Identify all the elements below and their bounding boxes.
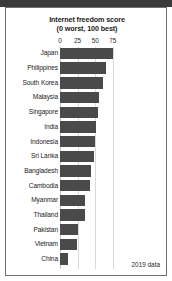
category-label: Singapore (29, 108, 58, 115)
bar (60, 209, 85, 220)
bar (60, 253, 68, 264)
category-label: Malaysia (33, 93, 58, 100)
category-label: Japan (41, 49, 58, 56)
bar (60, 92, 99, 103)
chart-title: Internet freedom score (0 worst, 100 bes… (6, 15, 168, 33)
bar-row: Vietnam (6, 238, 168, 252)
bar-row: Thailand (6, 209, 168, 223)
category-label: South Korea (22, 79, 58, 86)
x-axis-tick-labels: 0255075 (6, 37, 168, 47)
x-tick-label-0: 0 (58, 37, 62, 44)
top-border-strip (0, 0, 172, 7)
chart-figure: Internet freedom score (0 worst, 100 bes… (0, 0, 172, 281)
category-label: Myanmar (31, 196, 58, 203)
x-tick-label-75: 75 (109, 37, 116, 44)
bar (60, 239, 77, 250)
category-label: China (41, 255, 58, 262)
bar-row: India (6, 120, 168, 134)
bar-row: South Korea (6, 76, 168, 90)
bar (60, 151, 94, 162)
bar (60, 77, 103, 88)
chart-subtitle: (0 worst, 100 best) (6, 24, 168, 33)
category-label: Cambodia (29, 182, 58, 189)
bar-row: Indonesia (6, 135, 168, 149)
bar (60, 195, 85, 206)
bar (60, 165, 91, 176)
category-label: Philippines (27, 64, 58, 71)
bar-row: Cambodia (6, 179, 168, 193)
bar (60, 180, 90, 191)
bar-row: Bangladesh (6, 165, 168, 179)
bar (60, 107, 98, 118)
bar-series: JapanPhilippinesSouth KoreaMalaysiaSinga… (6, 47, 168, 269)
bar (60, 136, 95, 147)
bar (60, 121, 96, 132)
source-note: 2019 data (132, 261, 160, 268)
category-label: Vietnam (35, 240, 58, 247)
bar-row: Philippines (6, 62, 168, 76)
category-label: Indonesia (30, 138, 58, 145)
x-tick-label-25: 25 (74, 37, 81, 44)
bar-row: Sri Lanka (6, 150, 168, 164)
bar-row: Malaysia (6, 91, 168, 105)
category-label: Bangladesh (24, 167, 58, 174)
category-label: Sri Lanka (31, 152, 58, 159)
chart-card: Internet freedom score (0 worst, 100 bes… (5, 7, 167, 276)
bar (60, 48, 113, 59)
bar-row: Singapore (6, 106, 168, 120)
bar-row: Pakistan (6, 223, 168, 237)
x-tick-label-50: 50 (92, 37, 99, 44)
bar-row: Myanmar (6, 194, 168, 208)
chart-title-main: Internet freedom score (49, 15, 125, 24)
bar-row: Japan (6, 47, 168, 61)
category-label: Pakistan (34, 226, 59, 233)
bar (60, 62, 106, 73)
category-label: Thailand (34, 211, 59, 218)
bar (60, 224, 78, 235)
category-label: India (44, 123, 58, 130)
